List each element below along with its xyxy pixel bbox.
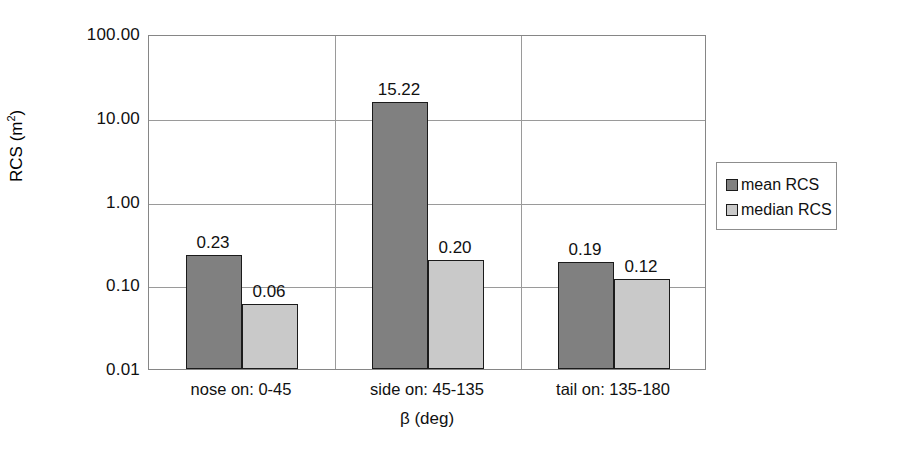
legend: mean RCS median RCS	[716, 162, 837, 230]
bar-median-1[interactable]	[428, 260, 484, 369]
y-axis-title: RCS (m2)	[5, 66, 27, 226]
y-axis-tick-label: 10.00	[8, 110, 140, 127]
bar-value-label: 15.22	[359, 81, 439, 98]
bar-value-label: 0.06	[229, 283, 309, 300]
y-axis-tick-label: 1.00	[8, 194, 140, 211]
x-axis-category-label: side on: 45-135	[334, 380, 520, 398]
y-axis-tick-label: 0.01	[8, 361, 140, 378]
x-axis-title: β (deg)	[148, 409, 706, 429]
y-axis-title-exponent: 2	[5, 115, 17, 121]
y-axis-title-base: RCS (m	[7, 122, 26, 182]
bar-value-label: 0.12	[601, 258, 681, 275]
legend-swatch-median-icon	[726, 204, 738, 216]
x-axis-category-label: nose on: 0-45	[148, 380, 334, 398]
bar-value-label: 0.23	[173, 234, 253, 251]
legend-label-mean: mean RCS	[741, 177, 819, 193]
x-axis-category-label: tail on: 135-180	[520, 380, 706, 398]
legend-label-median: median RCS	[741, 202, 832, 218]
legend-item-median[interactable]: median RCS	[726, 197, 836, 222]
legend-item-mean[interactable]: mean RCS	[726, 172, 836, 197]
bar-value-label: 0.19	[545, 241, 625, 258]
bar-median-2[interactable]	[614, 279, 670, 369]
rcs-bar-chart: 100.0010.001.000.100.01 RCS (m2) 0.230.0…	[0, 0, 914, 455]
bar-mean-0[interactable]	[186, 255, 242, 369]
y-axis-tick-label: 100.00	[8, 26, 140, 43]
y-axis-title-tail: )	[7, 110, 26, 116]
bar-median-0[interactable]	[242, 304, 298, 369]
category-separator-line	[521, 36, 522, 369]
y-axis-tick-label: 0.10	[8, 277, 140, 294]
category-separator-line	[335, 36, 336, 369]
legend-swatch-mean-icon	[726, 179, 738, 191]
bar-mean-2[interactable]	[558, 262, 614, 369]
bar-value-label: 0.20	[415, 239, 495, 256]
bar-mean-1[interactable]	[372, 102, 428, 369]
